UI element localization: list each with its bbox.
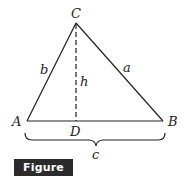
side-a-label: a (123, 60, 131, 75)
side-b-line (27, 23, 76, 121)
figure-caption: Figure 3.21 (14, 159, 73, 176)
vertex-a-label: A (11, 114, 21, 129)
side-b-label: b (40, 62, 48, 77)
point-d-label: D (69, 124, 81, 139)
side-a-line (76, 23, 163, 121)
vertex-b-label: B (167, 114, 178, 129)
side-c-label: c (92, 147, 100, 162)
vertex-c-label: C (71, 6, 81, 21)
side-c-brace (25, 133, 165, 146)
triangle-diagram: C A B D b a h c (0, 0, 185, 176)
altitude-h-label: h (80, 74, 88, 89)
